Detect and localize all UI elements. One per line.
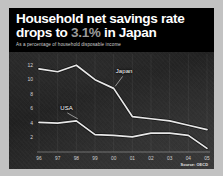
x-axis-tick-label: 96 [32, 156, 46, 161]
x-axis-tick-label: 00 [107, 156, 121, 161]
chart-header: Household net savings ratedrops to 3.1% … [9, 8, 214, 52]
chart-card: Household net savings ratedrops to 3.1% … [9, 8, 214, 169]
chart-subtitle: As a percentage of household disposable … [16, 42, 121, 48]
series-line-japan[interactable] [39, 65, 207, 129]
series-label-japan: Japan [116, 68, 133, 74]
chart-svg [9, 52, 214, 169]
annotation-leader-japan [115, 76, 123, 86]
title-line2-prefix: drops to [16, 25, 71, 40]
title-highlight-value: 3.1% [71, 25, 101, 40]
y-axis-tick-label: 12 [23, 63, 33, 68]
x-axis-tick-label: 99 [88, 156, 102, 161]
series-line-shadow-japan [39, 65, 207, 129]
plot-area: 12108642 96979899000102030405 JapanUSA S… [9, 52, 214, 169]
x-axis-tick-label: 05 [200, 156, 214, 161]
y-axis-tick-label: 8 [23, 92, 33, 97]
source-note: Source: OECD [181, 163, 208, 167]
page-title: Household net savings ratedrops to 3.1% … [16, 12, 206, 39]
x-axis-tick-label: 04 [181, 156, 195, 161]
y-axis-tick-label: 4 [23, 121, 33, 126]
x-axis-tick-label: 03 [163, 156, 177, 161]
y-axis-tick-label: 10 [23, 77, 33, 82]
x-axis-tick-label: 97 [51, 156, 65, 161]
screenshot-root: Household net savings ratedrops to 3.1% … [0, 0, 223, 176]
series-label-usa: USA [60, 105, 73, 111]
y-axis-tick-label: 6 [23, 106, 33, 111]
title-line2-suffix: in Japan [101, 25, 157, 40]
x-axis-tick-label: 01 [125, 156, 139, 161]
y-axis-tick-label: 2 [23, 135, 33, 140]
x-axis-tick-label: 98 [69, 156, 83, 161]
x-axis-tick-label: 02 [144, 156, 158, 161]
